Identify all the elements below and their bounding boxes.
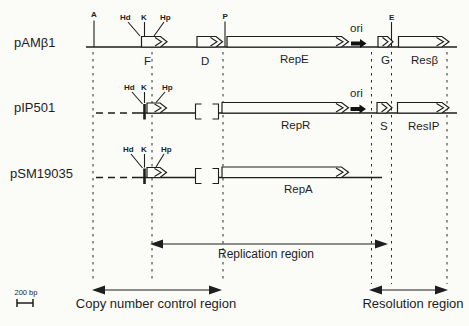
- site-leader-Hp: [156, 154, 164, 167]
- plasmid-name: pAMβ1: [14, 35, 55, 50]
- site-leader-Hp: [154, 22, 164, 36]
- gene-box-cop: [147, 103, 167, 113]
- gene-label-ResBeta: Resβ: [411, 54, 438, 66]
- resolution-region-span: Resolution region: [362, 286, 463, 312]
- site-label-Hp: Hp: [162, 83, 173, 92]
- gene-label-S: S: [380, 120, 388, 132]
- site-label-Hp: Hp: [161, 145, 172, 154]
- site-leader-Hp: [156, 92, 165, 103]
- copy-number-region-label: Copy number control region: [76, 296, 236, 311]
- arrow-head-left: [150, 240, 163, 249]
- gene-label-RepA: RepA: [284, 183, 313, 195]
- site-leader-Hd: [132, 92, 143, 104]
- resolution-region-label: Resolution region: [362, 296, 463, 311]
- arrow-head-right: [435, 286, 448, 295]
- site-label-P: P: [223, 12, 229, 21]
- gene-box-RepR: [222, 103, 349, 114]
- ori-arrow: [351, 105, 367, 114]
- site-leader-Hd: [131, 154, 143, 168]
- plasmid-name: pIP501: [14, 100, 55, 115]
- site-label-Hd: Hd: [124, 83, 135, 92]
- gene-label-ResIP: ResIP: [408, 120, 440, 132]
- site-label-Hp: Hp: [160, 13, 171, 22]
- gene-label-F: F: [144, 55, 151, 67]
- plasmid-row-pSM19035: pSM19035 Hd K Hp RepA: [10, 145, 382, 195]
- site-label-Hd: Hd: [120, 13, 131, 22]
- gene-box-ResIP: [398, 103, 450, 114]
- scale-bar: 200 bp: [15, 288, 38, 307]
- replication-region-label: Replication region: [218, 247, 314, 261]
- plasmid-map-canvas: pAMβ1 A Hd K Hp P E F D RepE ori G Resβ: [0, 0, 469, 326]
- arrow-head-right: [209, 286, 222, 295]
- plasmid-row-pIP501: pIP501 Hd K Hp RepR ori S ResIP: [14, 83, 457, 132]
- plasmid-row-pAMbeta1: pAMβ1 A Hd K Hp P E F D RepE ori G Resβ: [14, 10, 457, 67]
- gene-label-D: D: [201, 55, 209, 67]
- gene-label-RepR: RepR: [281, 119, 310, 131]
- gap-bracket-open: [196, 104, 202, 119]
- gene-box-RepA: [222, 167, 349, 178]
- arrow-head-left: [369, 286, 382, 295]
- gap-bracket-open: [196, 169, 202, 184]
- replication-region-span: Replication region: [150, 240, 388, 262]
- arrow-head-left: [92, 286, 105, 295]
- gap-bracket-close: [213, 104, 219, 119]
- gene-box-cop: [147, 168, 167, 178]
- site-label-E: E: [389, 13, 395, 22]
- gene-box-D: [197, 37, 223, 48]
- ori-label: ori: [350, 87, 363, 99]
- site-leader-Hd: [128, 22, 140, 36]
- copy-number-region-span: Copy number control region: [76, 286, 236, 312]
- plasmid-map-figure: pAMβ1 A Hd K Hp P E F D RepE ori G Resβ: [0, 0, 469, 326]
- gene-box-ResBeta: [399, 37, 450, 48]
- scale-bar-label: 200 bp: [15, 288, 38, 297]
- gene-box-F: [142, 37, 168, 48]
- gene-label-RepE: RepE: [280, 53, 309, 65]
- plasmid-name: pSM19035: [10, 166, 73, 181]
- site-label-K: K: [141, 83, 147, 92]
- ori-label: ori: [350, 22, 363, 34]
- gene-label-G: G: [381, 54, 390, 66]
- site-label-K: K: [141, 13, 147, 22]
- gene-box-S: [377, 103, 392, 114]
- arrow-head-right: [375, 240, 388, 249]
- site-label-A: A: [91, 10, 97, 19]
- site-label-K: K: [141, 145, 147, 154]
- gene-box-RepE: [227, 37, 349, 48]
- gene-box-G: [378, 37, 393, 48]
- site-label-Hd: Hd: [123, 145, 134, 154]
- gap-bracket-close: [213, 169, 219, 184]
